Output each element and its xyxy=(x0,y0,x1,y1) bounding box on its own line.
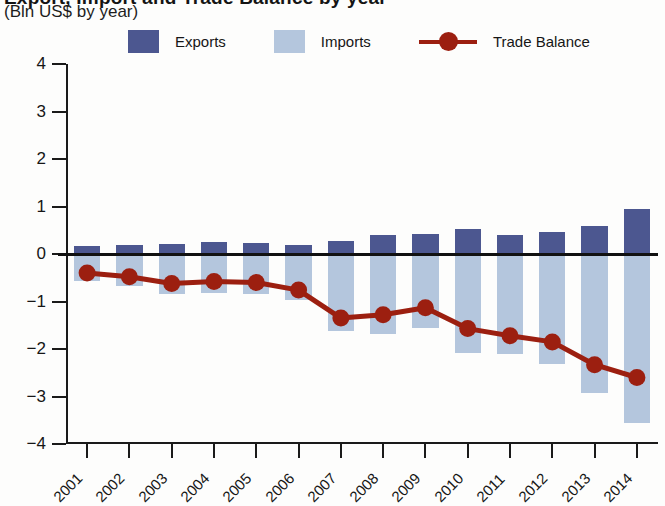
trade-balance-point-2013[interactable] xyxy=(586,356,603,373)
y-axis-label: 4 xyxy=(37,54,46,74)
trade-balance-point-2011[interactable] xyxy=(502,327,519,344)
x-axis-tick xyxy=(86,444,88,458)
legend-line-marker-icon xyxy=(419,30,477,53)
x-axis-label: 2010 xyxy=(431,470,467,506)
legend-swatch-icon xyxy=(274,30,305,53)
y-axis-label: 0 xyxy=(37,244,46,264)
plot-area: 43210−1−2−3−4 20012002200320042005200620… xyxy=(66,64,658,444)
trade-balance-point-2001[interactable] xyxy=(79,265,96,282)
trade-balance-point-2010[interactable] xyxy=(459,320,476,337)
x-axis-label: 2004 xyxy=(177,470,213,506)
y-axis-tick xyxy=(52,63,66,65)
trade-balance-point-2014[interactable] xyxy=(628,369,645,386)
x-axis-label: 2011 xyxy=(473,470,508,505)
x-axis-tick xyxy=(298,444,300,458)
trade-balance-point-2006[interactable] xyxy=(290,282,307,299)
x-axis-tick xyxy=(594,444,596,458)
x-axis-label: 2009 xyxy=(388,470,424,506)
trade-balance-point-2005[interactable] xyxy=(248,274,265,291)
trade-balance-chart: Export, Import and Trade Balance by year… xyxy=(0,0,665,506)
trade-balance-point-2002[interactable] xyxy=(121,268,138,285)
y-axis-tick xyxy=(52,396,66,398)
trade-balance-point-2007[interactable] xyxy=(332,310,349,327)
y-axis-label: 2 xyxy=(37,149,46,169)
trade-balance-point-2012[interactable] xyxy=(544,333,561,350)
x-axis-label: 2006 xyxy=(261,470,297,506)
legend-swatch-icon xyxy=(128,30,159,53)
x-axis-tick xyxy=(467,444,469,458)
x-axis-label: 2007 xyxy=(304,470,340,506)
x-axis-label: 2001 xyxy=(50,470,86,506)
y-axis-label: −1 xyxy=(27,292,46,312)
x-axis-tick xyxy=(213,444,215,458)
legend-item-trade-balance[interactable]: Trade Balance xyxy=(419,30,590,53)
x-axis-tick xyxy=(509,444,511,458)
x-axis-label: 2008 xyxy=(346,470,382,506)
x-axis-tick xyxy=(424,444,426,458)
legend-label: Trade Balance xyxy=(493,33,590,50)
y-axis-tick xyxy=(52,111,66,113)
x-axis-tick xyxy=(636,444,638,458)
legend-item-imports[interactable]: Imports xyxy=(274,30,371,53)
chart-subtitle: (Bln US$ by year) xyxy=(4,2,138,22)
y-axis-label: 3 xyxy=(37,102,46,122)
x-axis-label: 2002 xyxy=(92,470,128,506)
trade-balance-point-2003[interactable] xyxy=(163,275,180,292)
x-axis-tick xyxy=(128,444,130,458)
legend-item-exports[interactable]: Exports xyxy=(128,30,226,53)
x-axis-tick xyxy=(382,444,384,458)
trade-balance-line-layer xyxy=(66,64,658,444)
y-axis-tick xyxy=(52,301,66,303)
trade-balance-point-2009[interactable] xyxy=(417,299,434,316)
x-axis-tick xyxy=(255,444,257,458)
x-axis-label: 2003 xyxy=(135,470,171,506)
x-axis-label: 2013 xyxy=(557,470,593,506)
x-axis-tick xyxy=(551,444,553,458)
y-axis-label: −3 xyxy=(27,387,46,407)
x-axis-tick xyxy=(340,444,342,458)
chart-legend: ExportsImportsTrade Balance xyxy=(128,30,590,53)
y-axis-label: 1 xyxy=(37,197,46,217)
y-axis-label: −2 xyxy=(27,339,46,359)
legend-label: Exports xyxy=(175,33,226,50)
legend-label: Imports xyxy=(321,33,371,50)
x-axis-label: 2005 xyxy=(219,470,255,506)
x-axis-label: 2012 xyxy=(515,470,551,506)
y-axis-tick xyxy=(52,158,66,160)
y-axis-tick xyxy=(52,206,66,208)
y-axis-tick xyxy=(52,348,66,350)
trade-balance-point-2008[interactable] xyxy=(375,306,392,323)
y-axis-label: −4 xyxy=(27,434,46,454)
x-axis-tick xyxy=(171,444,173,458)
y-axis-tick xyxy=(52,443,66,445)
trade-balance-point-2004[interactable] xyxy=(206,273,223,290)
x-axis-label: 2014 xyxy=(600,470,636,506)
